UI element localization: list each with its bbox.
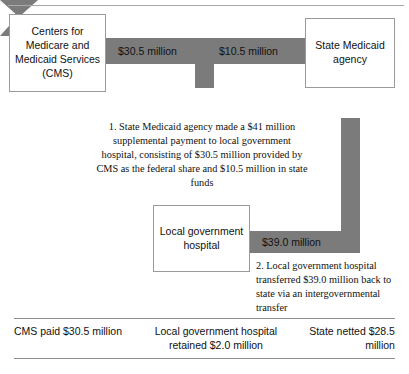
entity-box-state-medicaid-agency: State Medicaid agency (305, 18, 395, 88)
note-step-1: 1. State Medicaid agency made a $41 mill… (96, 120, 308, 190)
flow-arrow-down-shaft (195, 62, 214, 88)
flow-label-state-share: $10.5 million (219, 45, 278, 57)
top-divider-rule (8, 5, 404, 6)
summary-cell-hospital-retained: Local government hospital retained $2.0 … (140, 324, 292, 353)
flow-arrow-up-shaft (341, 118, 360, 234)
summary-cell-cms-paid: CMS paid $30.5 million (14, 324, 140, 338)
summary-rule-top (14, 318, 395, 319)
summary-cell-state-netted: State netted $28.5 million (292, 324, 395, 353)
entity-box-cms-label: Centers for Medicare and Medicaid Servic… (10, 25, 105, 80)
entity-box-state-medicaid-agency-label: State Medicaid agency (306, 39, 394, 67)
entity-box-local-government-hospital: Local government hospital (153, 205, 250, 272)
flow-label-federal-share: $30.5 million (118, 45, 177, 57)
flow-label-transfer-back: $39.0 million (262, 236, 321, 248)
diagram-canvas: Centers for Medicare and Medicaid Servic… (0, 0, 409, 374)
entity-box-cms: Centers for Medicare and Medicaid Servic… (9, 14, 106, 92)
entity-box-local-government-hospital-label: Local government hospital (154, 225, 249, 253)
summary-rule-bottom (14, 358, 395, 359)
note-step-2: 2. Local government hospital transferred… (256, 259, 406, 315)
summary-row: CMS paid $30.5 million Local government … (14, 324, 395, 356)
